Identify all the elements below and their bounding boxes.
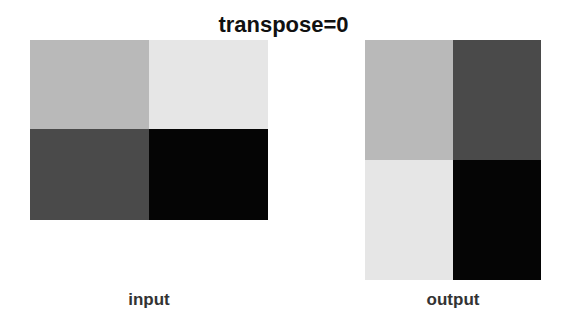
output-cell-0-1 [453, 40, 541, 160]
figure-title: transpose=0 [0, 12, 567, 38]
output-cell-0-0 [365, 40, 453, 160]
input-cell-0-1 [149, 40, 268, 129]
output-label: output [403, 290, 503, 310]
input-cell-1-0 [30, 129, 149, 220]
output-cell-1-0 [365, 160, 453, 280]
output-image [365, 40, 541, 280]
input-cell-1-1 [149, 129, 268, 220]
input-label: input [99, 290, 199, 310]
input-cell-0-0 [30, 40, 149, 129]
input-image [30, 40, 268, 220]
output-cell-1-1 [453, 160, 541, 280]
